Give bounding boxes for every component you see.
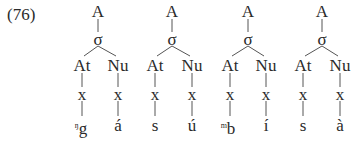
nucleus-segment: à [336, 117, 344, 134]
onset-node: At [222, 57, 239, 74]
onset-timing-slot: x [299, 86, 308, 103]
nucleus-segment: á [114, 117, 122, 134]
onset-consonant: g [79, 119, 88, 138]
root-node: A [316, 3, 328, 20]
syllable-node: σ [167, 31, 176, 48]
syllable-node: σ [317, 31, 326, 48]
onset-node: At [295, 57, 312, 74]
onset-segment: ŋg [75, 117, 87, 137]
onset-segment: mb [221, 117, 236, 137]
onset-consonant: b [227, 119, 236, 138]
nucleus-timing-slot: x [114, 86, 123, 103]
nucleus-timing-slot: x [336, 86, 345, 103]
onset-segment: s [300, 117, 307, 134]
onset-segment: s [152, 117, 159, 134]
nucleus-node: Nu [182, 57, 203, 74]
nucleus-node: Nu [108, 57, 129, 74]
nucleus-node: Nu [256, 57, 277, 74]
onset-timing-slot: x [78, 86, 87, 103]
root-node: A [242, 3, 254, 20]
root-node: A [92, 3, 104, 20]
nucleus-timing-slot: x [262, 86, 271, 103]
onset-node: At [74, 57, 91, 74]
nucleus-timing-slot: x [188, 86, 197, 103]
root-node: A [166, 3, 178, 20]
nucleus-segment: í [264, 117, 269, 134]
onset-node: At [147, 57, 164, 74]
nucleus-node: Nu [330, 57, 351, 74]
syllable-node: σ [93, 31, 102, 48]
onset-timing-slot: x [226, 86, 235, 103]
syllable-node: σ [243, 31, 252, 48]
onset-timing-slot: x [151, 86, 160, 103]
nucleus-segment: ú [188, 117, 197, 134]
